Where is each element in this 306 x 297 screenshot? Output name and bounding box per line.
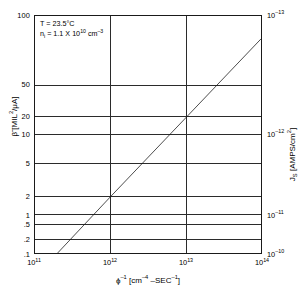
x-tick-1e11: 1011 [27, 258, 41, 267]
annotation-n-unit: cm [86, 29, 98, 38]
y-tick-left-0.5: .5 [24, 220, 30, 229]
y-tick-right-1e-11-mantissa: 10 [267, 210, 275, 219]
x-tick-1e11-exponent: 11 [35, 257, 41, 263]
x-axis-title: ϕ–1 [cm–4 –SEC–1] [34, 276, 262, 285]
y-tick-left-10: 10 [22, 130, 30, 139]
y-axis-left-title-unit-exponent: 2 [8, 111, 14, 114]
y-axis-right-title-unit-exponent: 2 [286, 130, 292, 133]
y-axis-right-ticks: 10–13 10–12 10–11 10–10 [267, 15, 306, 254]
x-axis-title-unit-open: [cm [127, 276, 142, 285]
plot-area: T = 23.5°C ni = 1.1 X 1010 cm–3 [34, 15, 262, 254]
x-axis-title-unit-mid: –SEC [148, 276, 171, 285]
y-tick-left-2: 2 [26, 192, 30, 201]
y-axis-right-title-subscript: S [292, 173, 298, 177]
y-axis-right-title-unit: [AMPS/cm [288, 133, 297, 173]
x-tick-1e12: 1012 [103, 258, 117, 267]
y-axis-left-title: β̃ [MIL2/μA] [10, 57, 19, 177]
x-tick-1e14: 1014 [255, 258, 269, 267]
x-axis-title-unit-close: ] [178, 276, 180, 285]
x-tick-1e13-mantissa: 10 [179, 258, 187, 267]
y-tick-left-20: 20 [22, 111, 30, 120]
y-axis-right-title: JS [AMPS/cm2] [288, 95, 297, 215]
annotation-conditions: T = 23.5°C ni = 1.1 X 1010 cm–3 [40, 19, 103, 40]
x-tick-1e12-mantissa: 10 [103, 258, 111, 267]
y-tick-right-1e-12-exponent: –12 [275, 128, 284, 134]
y-axis-right-title-symbol: J [288, 177, 297, 181]
y-axis-left-title-unit-tail: /μA] [10, 97, 19, 111]
x-tick-1e11-mantissa: 10 [27, 258, 35, 267]
y-tick-right-1e-10: 10–10 [267, 250, 284, 259]
y-tick-right-1e-13-mantissa: 10 [267, 11, 275, 20]
y-axis-left-title-unit: [MIL [10, 114, 19, 132]
annotation-temperature: T = 23.5°C [40, 19, 103, 29]
chart-figure: T = 23.5°C ni = 1.1 X 1010 cm–3 100 50 2… [0, 0, 306, 297]
y-tick-right-1e-11: 10–11 [267, 210, 284, 219]
y-tick-right-1e-12: 10–12 [267, 130, 284, 139]
y-tick-right-1e-10-exponent: –10 [275, 248, 284, 254]
y-tick-right-1e-13-exponent: –13 [275, 9, 284, 15]
data-series-line [35, 16, 261, 253]
y-tick-left-50: 50 [22, 80, 30, 89]
y-axis-left-title-symbol: β̃ [10, 132, 19, 137]
y-tick-left-0.2: .2 [24, 235, 30, 244]
x-tick-1e12-exponent: 12 [111, 257, 117, 263]
x-tick-1e14-exponent: 14 [263, 257, 269, 263]
annotation-intrinsic-carrier-density: ni = 1.1 X 1010 cm–3 [40, 29, 103, 39]
series-polyline [58, 39, 261, 253]
y-tick-right-1e-11-exponent: –11 [275, 209, 283, 215]
y-tick-left-5: 5 [26, 159, 30, 168]
annotation-n-unit-exponent: –3 [97, 28, 103, 34]
annotation-n-equals: = 1.1 X 10 [45, 29, 80, 38]
x-axis-ticks: 1011 1012 1013 1014 [34, 258, 262, 272]
y-tick-right-1e-13: 10–13 [267, 11, 284, 20]
y-axis-right-title-unit-close: ] [288, 128, 297, 130]
x-tick-1e13: 1013 [179, 258, 193, 267]
x-tick-1e13-exponent: 13 [187, 257, 193, 263]
y-tick-left-1: 1 [26, 210, 30, 219]
y-tick-left-100: 100 [17, 11, 30, 20]
y-tick-right-1e-12-mantissa: 10 [267, 130, 275, 139]
x-tick-1e14-mantissa: 10 [255, 258, 263, 267]
